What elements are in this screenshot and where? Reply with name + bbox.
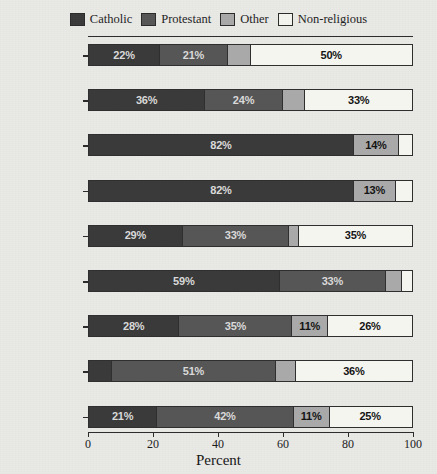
bar-row: 28%35%11%26%	[88, 315, 413, 337]
bar-segment: 82%	[89, 135, 354, 155]
x-axis-tick-label: 80	[342, 438, 354, 451]
legend-swatch-icon	[70, 13, 85, 26]
bar-row: 82%13%	[88, 180, 413, 202]
bar-segment-value-label: 33%	[348, 95, 369, 106]
bar-segment: 33%	[280, 271, 387, 291]
bar-segment: 35%	[299, 226, 412, 246]
legend-swatch-icon	[220, 13, 235, 26]
legend-label: Other	[240, 13, 268, 26]
legend-entry: Other	[220, 13, 268, 26]
bar-segment: 35%	[179, 316, 292, 336]
bar-segment: 21%	[89, 407, 157, 427]
bar-segment	[289, 226, 299, 246]
x-axis-tick-label: 40	[212, 438, 224, 451]
bar-segment: 11%	[294, 407, 330, 427]
legend-entry: Catholic	[70, 13, 132, 26]
bar-segment: 22%	[89, 45, 160, 65]
x-axis-tick-label: 0	[85, 438, 91, 451]
bar-segment	[396, 181, 412, 201]
bar-segment-value-label: 22%	[113, 50, 134, 61]
bar-row: 29%33%35%	[88, 225, 413, 247]
chart-legend: CatholicProtestantOtherNon-religious	[0, 13, 437, 26]
bar-segment-value-label: 25%	[359, 411, 380, 422]
bar-segment: 25%	[330, 407, 411, 427]
legend-label: Non-religious	[298, 13, 367, 26]
bar-segment	[399, 135, 412, 155]
bar-segment: 26%	[328, 316, 412, 336]
legend-entry: Protestant	[141, 13, 211, 26]
bar-segment	[89, 361, 112, 381]
bar-segment	[276, 361, 295, 381]
bar-segment	[283, 90, 306, 110]
bar-row: 59%33%	[88, 270, 413, 292]
bar-segment: 13%	[354, 181, 396, 201]
bar-segment	[402, 271, 412, 291]
legend-entry: Non-religious	[278, 13, 367, 26]
bar-row: 22%21%50%	[88, 44, 413, 66]
bar-segment: 28%	[89, 316, 179, 336]
bar-segment: 33%	[183, 226, 290, 246]
bar-segment: 82%	[89, 181, 354, 201]
x-axis-tick-label: 100	[404, 438, 422, 451]
legend-swatch-icon	[278, 13, 293, 26]
bar-segment: 36%	[296, 361, 412, 381]
x-axis-tick-label: 60	[277, 438, 289, 451]
bar-segment-value-label: 13%	[364, 185, 385, 196]
bar-segment-value-label: 33%	[322, 276, 343, 287]
bar-segment: 14%	[354, 135, 399, 155]
bar-segment: 36%	[89, 90, 205, 110]
bar-segment-value-label: 21%	[112, 411, 133, 422]
bar-segment-value-label: 29%	[125, 230, 146, 241]
bar-segment-value-label: 50%	[321, 50, 342, 61]
bar-row: 36%24%33%	[88, 89, 413, 111]
x-axis-title: Percent	[0, 452, 437, 468]
bar-segment: 33%	[305, 90, 412, 110]
x-axis-tick-label: 20	[147, 438, 159, 451]
bar-segment-value-label: 21%	[183, 50, 204, 61]
bar-segment	[228, 45, 251, 65]
bar-segment-value-label: 35%	[225, 321, 246, 332]
bar-segment-value-label: 36%	[343, 366, 364, 377]
bar-segment: 11%	[292, 316, 328, 336]
bar-segment-value-label: 24%	[233, 95, 254, 106]
bar-segment-value-label: 51%	[183, 366, 204, 377]
stacked-bar-chart: CatholicProtestantOtherNon-religious 020…	[0, 0, 437, 474]
bar-segment	[386, 271, 402, 291]
bar-row: 82%14%	[88, 134, 413, 156]
bar-segment: 59%	[89, 271, 280, 291]
legend-label: Catholic	[90, 13, 132, 26]
bar-segment: 51%	[112, 361, 277, 381]
bar-segment-value-label: 28%	[123, 321, 144, 332]
bar-segment-value-label: 11%	[299, 321, 320, 332]
bar-row: 51%36%	[88, 360, 413, 382]
bar-segment-value-label: 11%	[301, 411, 322, 422]
bar-segment-value-label: 59%	[173, 276, 194, 287]
plot-top-rule	[88, 36, 413, 37]
bar-segment-value-label: 82%	[210, 185, 231, 196]
bar-segment-value-label: 82%	[210, 140, 231, 151]
bar-segment: 24%	[205, 90, 283, 110]
bar-segment: 42%	[157, 407, 294, 427]
legend-label: Protestant	[161, 13, 211, 26]
bar-segment-value-label: 35%	[345, 230, 366, 241]
bar-segment: 29%	[89, 226, 183, 246]
bar-segment-value-label: 14%	[365, 140, 386, 151]
bar-row: 21%42%11%25%	[88, 406, 413, 428]
legend-swatch-icon	[141, 13, 156, 26]
bar-segment-value-label: 33%	[225, 230, 246, 241]
bar-segment: 50%	[251, 45, 412, 65]
bar-segment-value-label: 36%	[136, 95, 157, 106]
bar-segment-value-label: 26%	[359, 321, 380, 332]
x-axis-line	[88, 432, 413, 433]
bar-segment: 21%	[160, 45, 228, 65]
bar-segment-value-label: 42%	[214, 411, 235, 422]
